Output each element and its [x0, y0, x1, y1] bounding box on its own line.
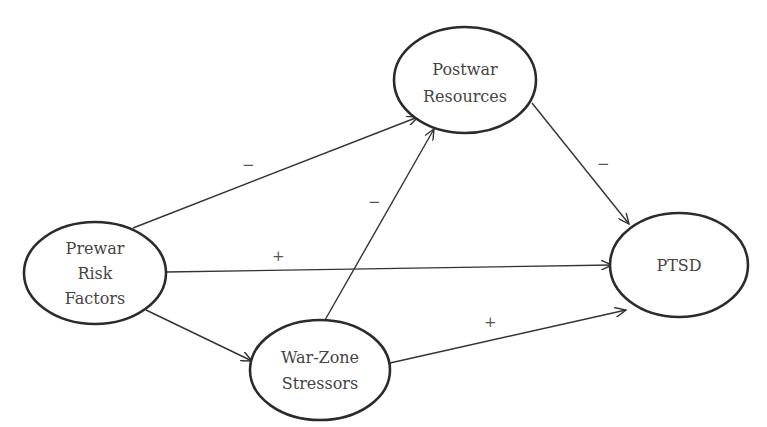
node-label-line: Prewar [66, 239, 125, 258]
node-label-line: Stressors [282, 374, 358, 393]
node-label-line: Risk [77, 264, 112, 283]
node-label-line: Factors [65, 289, 125, 308]
node-label-line: Postwar [432, 60, 498, 79]
edge-postwar-to-ptsd [532, 103, 629, 224]
sign-prewar-ptsd: + [272, 247, 285, 265]
edge-prewar-to-ptsd [166, 265, 612, 272]
sign-prewar-postwar: − [242, 156, 255, 174]
sign-warzone-postwar: − [368, 193, 381, 211]
diagram-svg: − + − + − Prewar Risk Factors Postwar Re… [0, 0, 767, 427]
node-war-zone-stressors: War-Zone Stressors [250, 320, 390, 420]
node-prewar-risk-factors: Prewar Risk Factors [24, 222, 166, 324]
node-label-line: Resources [423, 87, 507, 106]
node-label-line: PTSD [656, 256, 701, 275]
edge-warzone-to-ptsd [390, 310, 626, 363]
node-label-line: War-Zone [281, 348, 359, 367]
sign-postwar-ptsd: − [597, 155, 610, 173]
node-postwar-resources: Postwar Resources [394, 27, 536, 133]
edge-prewar-to-postwar [133, 117, 418, 228]
sign-warzone-ptsd: + [484, 313, 497, 331]
node-ptsd: PTSD [610, 213, 748, 317]
path-diagram: − + − + − Prewar Risk Factors Postwar Re… [0, 0, 767, 427]
edge-warzone-to-postwar [325, 129, 434, 320]
edge-prewar-to-warzone [146, 310, 252, 361]
